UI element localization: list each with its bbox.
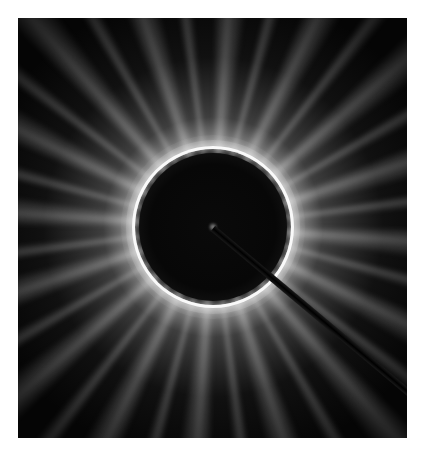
diffraction-image [18,18,407,438]
